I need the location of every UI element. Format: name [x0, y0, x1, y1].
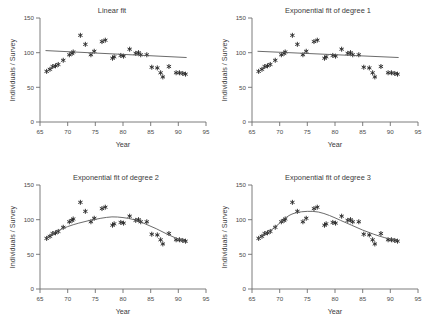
x-tick-80: 80 — [332, 128, 339, 135]
y-tick-150: 150 — [236, 181, 247, 188]
x-tick-95: 95 — [415, 128, 422, 135]
y-axis-label: Individuals / Survey — [8, 205, 17, 268]
panel-exponential-degree-3: Exponential fit of degree 3 0 50 100 15 — [212, 167, 424, 334]
y-tick-150: 150 — [24, 181, 35, 188]
plot-linear-fit: Linear fit 0 50 100 150 — [0, 0, 212, 167]
x-tick-65: 65 — [249, 128, 256, 135]
y-tick-100: 100 — [236, 49, 247, 56]
data-points — [44, 200, 187, 247]
panel-linear-fit: Linear fit 0 50 100 150 — [0, 0, 212, 167]
y-axis-label: Individuals / Survey — [220, 38, 229, 101]
y-tick-labels: 0 50 100 150 — [24, 14, 35, 125]
x-tick-90: 90 — [387, 128, 394, 135]
y-tick-100: 100 — [236, 216, 247, 223]
x-axis-label: Year — [328, 140, 343, 149]
data-points — [256, 200, 399, 247]
x-tick-70: 70 — [276, 295, 283, 302]
fit-curve — [46, 51, 187, 58]
data-points — [256, 33, 399, 80]
x-tick-85: 85 — [359, 295, 366, 302]
plot-exp-degree-3: Exponential fit of degree 3 0 50 100 15 — [212, 167, 424, 334]
y-tick-50: 50 — [27, 84, 34, 91]
y-tick-labels: 0 50 100 150 — [24, 181, 35, 292]
x-tick-65: 65 — [249, 295, 256, 302]
panel-title: Exponential fit of degree 3 — [285, 173, 371, 182]
y-tick-labels: 0 50 100 150 — [236, 181, 247, 292]
y-tick-0: 0 — [243, 285, 247, 292]
x-tick-75: 75 — [92, 295, 99, 302]
x-tick-labels: 65 70 75 80 85 90 95 — [249, 295, 422, 302]
x-tick-95: 95 — [203, 295, 210, 302]
fit-curve — [46, 217, 187, 243]
x-tick-75: 75 — [304, 295, 311, 302]
panel-title: Linear fit — [98, 6, 126, 15]
x-tick-85: 85 — [359, 128, 366, 135]
x-tick-90: 90 — [175, 128, 182, 135]
panel-exponential-degree-1: Exponential fit of degree 1 0 50 100 15 — [212, 0, 424, 167]
x-tick-labels: 65 70 75 80 85 90 95 — [37, 128, 210, 135]
y-tick-50: 50 — [27, 251, 34, 258]
x-tick-85: 85 — [147, 128, 154, 135]
y-tick-150: 150 — [24, 14, 35, 21]
x-tick-65: 65 — [37, 128, 44, 135]
x-axis-label: Year — [328, 307, 343, 316]
panel-title: Exponential fit of degree 2 — [73, 173, 159, 182]
x-tick-85: 85 — [147, 295, 154, 302]
x-tick-80: 80 — [120, 128, 127, 135]
y-axis-label: Individuals / Survey — [8, 38, 17, 101]
y-tick-labels: 0 50 100 150 — [236, 14, 247, 125]
x-tick-75: 75 — [92, 128, 99, 135]
y-tick-100: 100 — [24, 216, 35, 223]
y-tick-150: 150 — [236, 14, 247, 21]
x-tick-95: 95 — [203, 128, 210, 135]
x-tick-labels: 65 70 75 80 85 90 95 — [37, 295, 210, 302]
x-tick-90: 90 — [387, 295, 394, 302]
x-tick-65: 65 — [37, 295, 44, 302]
panel-title: Exponential fit of degree 1 — [285, 6, 371, 15]
plot-exp-degree-2: Exponential fit of degree 2 0 50 100 15 — [0, 167, 212, 334]
y-tick-0: 0 — [31, 118, 35, 125]
x-tick-80: 80 — [120, 295, 127, 302]
fit-curve — [258, 51, 399, 57]
y-tick-100: 100 — [24, 49, 35, 56]
x-tick-70: 70 — [64, 128, 71, 135]
y-tick-0: 0 — [243, 118, 247, 125]
x-tick-90: 90 — [175, 295, 182, 302]
plot-exp-degree-1: Exponential fit of degree 1 0 50 100 15 — [212, 0, 424, 167]
y-tick-50: 50 — [239, 251, 246, 258]
x-tick-75: 75 — [304, 128, 311, 135]
x-tick-labels: 65 70 75 80 85 90 95 — [249, 128, 422, 135]
x-tick-70: 70 — [64, 295, 71, 302]
x-tick-80: 80 — [332, 295, 339, 302]
x-tick-70: 70 — [276, 128, 283, 135]
y-tick-0: 0 — [31, 285, 35, 292]
x-axis-label: Year — [116, 140, 131, 149]
y-axis-label: Individuals / Survey — [220, 205, 229, 268]
x-tick-95: 95 — [415, 295, 422, 302]
x-axis-label: Year — [116, 307, 131, 316]
figure-multi-panel-regression: Linear fit 0 50 100 150 — [0, 0, 425, 334]
y-tick-50: 50 — [239, 84, 246, 91]
panel-exponential-degree-2: Exponential fit of degree 2 0 50 100 15 — [0, 167, 212, 334]
fit-curve — [258, 211, 399, 240]
